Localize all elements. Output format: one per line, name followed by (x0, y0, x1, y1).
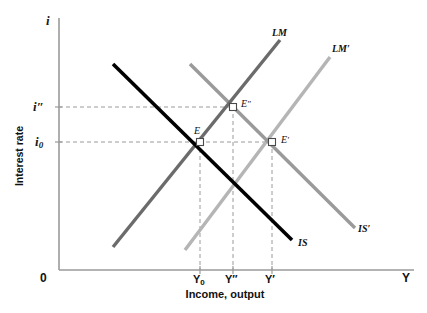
y-axis-symbol: i (46, 14, 50, 27)
y-tick-label-i-double-prime: i″ (33, 100, 43, 113)
curve-label-is-prime: IS′ (358, 224, 370, 234)
y-tick-label-i-zero: i0 (35, 135, 43, 148)
curve-label-is: IS (298, 238, 307, 248)
x-tick-label-y-prime: Y′ (265, 274, 275, 285)
equilibrium-label-e-double-prime: E″ (241, 99, 251, 109)
equilibrium-label-e: E (194, 126, 200, 136)
curve-lm-prime (185, 57, 330, 250)
x-axis-title: Income, output (160, 288, 290, 300)
y-axis-title: Interest rate (13, 101, 25, 211)
equilibrium-point-e-double-prime (230, 104, 237, 111)
x-tick-label-y-double-prime: Y″ (225, 274, 238, 285)
origin-label: 0 (40, 272, 47, 284)
equilibrium-point-e-prime (269, 139, 276, 146)
equilibrium-point-e (197, 139, 204, 146)
plot-canvas (0, 0, 427, 313)
is-lm-figure: i Interest rate i″ i0 0 Y Y0 Y″ Y′ Incom… (0, 0, 427, 313)
curve-label-lm-prime: LM′ (332, 44, 350, 54)
curve-label-lm: LM (272, 28, 287, 38)
x-axis-symbol: Y (402, 272, 410, 284)
equilibrium-label-e-prime: E′ (281, 135, 289, 145)
x-tick-label-y-zero: Y0 (193, 274, 205, 285)
